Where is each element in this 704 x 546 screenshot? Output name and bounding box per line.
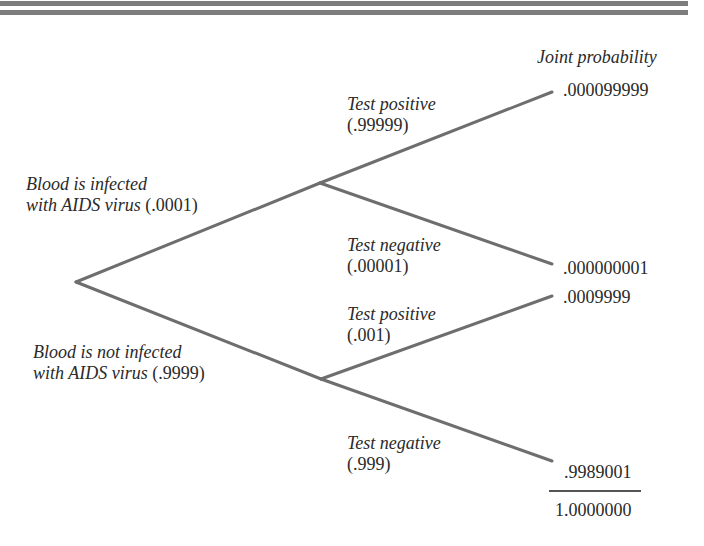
label-infected-line2: with AIDS virus (.0001) bbox=[26, 195, 198, 216]
sum-rule bbox=[549, 490, 641, 492]
test-positive-prob: (.99999) bbox=[347, 115, 436, 136]
label-infected-positive: Test positive (.99999) bbox=[347, 94, 436, 136]
prob-not-infected: (.9999) bbox=[152, 363, 205, 383]
label-infected-virus: with AIDS virus bbox=[26, 195, 141, 215]
label-infected-line1: Blood is infected bbox=[26, 174, 198, 195]
label-not-infected-line1: Blood is not infected bbox=[33, 342, 205, 363]
joint-infected-negative: .000000001 bbox=[563, 258, 649, 279]
test-positive-label: Test positive bbox=[347, 304, 436, 325]
label-infected: Blood is infected with AIDS virus (.0001… bbox=[26, 174, 198, 216]
test-negative-label: Test negative bbox=[347, 433, 441, 454]
label-not-infected-negative: Test negative (.999) bbox=[347, 433, 441, 475]
test-negative-prob: (.999) bbox=[347, 454, 441, 475]
test-positive-prob: (.001) bbox=[347, 325, 436, 346]
joint-not-infected-positive: .0009999 bbox=[563, 287, 631, 308]
test-negative-label: Test negative bbox=[347, 235, 441, 256]
label-infected-negative: Test negative (.00001) bbox=[347, 235, 441, 277]
joint-probability-header: Joint probability bbox=[537, 47, 657, 68]
test-negative-prob: (.00001) bbox=[347, 256, 441, 277]
label-not-infected-positive: Test positive (.001) bbox=[347, 304, 436, 346]
label-not-infected: Blood is not infected with AIDS virus (.… bbox=[33, 342, 205, 384]
joint-total: 1.0000000 bbox=[555, 500, 632, 521]
label-not-infected-virus: with AIDS virus bbox=[33, 363, 148, 383]
joint-infected-positive: .000099999 bbox=[563, 80, 649, 101]
label-not-infected-line2: with AIDS virus (.9999) bbox=[33, 363, 205, 384]
prob-infected: (.0001) bbox=[145, 195, 198, 215]
test-positive-label: Test positive bbox=[347, 94, 436, 115]
joint-not-infected-negative: .9989001 bbox=[564, 462, 632, 483]
